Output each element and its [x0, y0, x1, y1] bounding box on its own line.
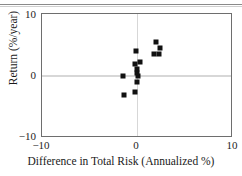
data-point-marker — [134, 66, 139, 71]
top-divider-rule-shadow — [0, 6, 242, 7]
top-divider-rule — [0, 4, 242, 5]
x-axis-tick-label-left: −10 — [29, 140, 53, 151]
data-point-marker — [153, 39, 158, 44]
data-point-marker — [134, 80, 139, 85]
y-axis-title: Return (%/year) — [5, 0, 21, 108]
data-point-marker — [156, 52, 161, 57]
plot-frame — [41, 13, 232, 137]
y-axis-tick-label-middle: 0 — [31, 70, 37, 81]
data-point-marker — [132, 89, 137, 94]
data-point-marker — [121, 74, 126, 79]
plot-area — [42, 14, 231, 136]
data-point-marker — [122, 92, 127, 97]
scatter-chart-figure: 10 0 −10 −10 0 10 Difference in Total Ri… — [0, 0, 242, 176]
data-point-marker — [132, 61, 137, 66]
y-axis-title-wrapper: Return (%/year) — [5, 0, 21, 108]
y-axis-tick-label-top: 10 — [25, 9, 36, 20]
data-point-marker — [133, 49, 138, 54]
data-point-marker — [138, 59, 143, 64]
x-axis-title: Difference in Total Risk (Annualized %) — [0, 155, 242, 168]
x-axis-tick-label-right: 10 — [220, 140, 242, 151]
data-point-marker — [158, 46, 163, 51]
x-axis-tick-label-middle: 0 — [124, 140, 148, 151]
data-point-marker — [134, 70, 139, 75]
